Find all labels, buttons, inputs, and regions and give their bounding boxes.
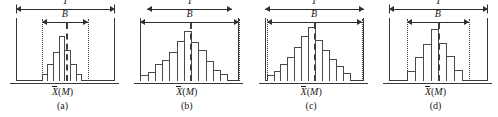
panel-a-axis [10, 83, 119, 84]
panel-b-spread-right-line [239, 19, 240, 81]
x-bar-symbol: X [301, 86, 307, 98]
panel-c-caption: (c) [251, 100, 372, 112]
panel-d-x-label: X(M) [375, 86, 496, 98]
histogram-bar [454, 70, 463, 81]
spread-label: B [267, 9, 362, 19]
histogram-bar [343, 73, 351, 81]
panel-a-spread-right-line [88, 19, 89, 81]
panel-c-x-label: X(M) [251, 86, 372, 98]
panel-a: T B X(M) (a) [2, 0, 123, 117]
panel-b-spread-left-line [140, 19, 141, 81]
m-symbol: M [186, 86, 194, 97]
panel-a-spread-left-line [42, 19, 43, 81]
panel-d-spread-left-line [407, 19, 408, 81]
panel-d-mean-line [438, 23, 440, 81]
panel-c-mean-line [314, 23, 316, 81]
paren-close: ) [443, 86, 446, 97]
x-bar-symbol: X [176, 86, 182, 98]
paren-close: ) [70, 86, 73, 97]
x-bar-symbol: X [52, 86, 58, 98]
histogram-bar [220, 74, 228, 81]
panel-c-axis [259, 83, 368, 84]
panel-c-spread-right-line [362, 19, 363, 81]
paren-close: ) [318, 86, 321, 97]
panel-c-spread-left-line [267, 19, 268, 81]
panel-b-mean-line [190, 23, 192, 81]
histogram-tolerance-figure: T B X(M) (a) T B [0, 0, 498, 117]
panel-b-plot [140, 18, 239, 81]
panel-d-caption: (d) [375, 100, 496, 112]
panel-d-plot [389, 18, 488, 81]
paren-close: ) [194, 86, 197, 97]
histogram-bar [76, 74, 83, 81]
panel-b: T B X(M) (b) [126, 0, 247, 117]
tolerance-label: T [147, 0, 232, 6]
panel-b-x-label: X(M) [126, 86, 247, 98]
m-symbol: M [434, 86, 442, 97]
x-bar-symbol: X [425, 86, 431, 98]
panel-d: T B X(M) (d) [375, 0, 496, 117]
spread-label: B [42, 9, 89, 19]
tolerance-label: T [265, 0, 364, 6]
panel-d-spread-right-line [469, 19, 470, 81]
panel-b-caption: (b) [126, 100, 247, 112]
panel-a-mean-line [66, 23, 68, 81]
panel-a-x-label: X(M) [2, 86, 123, 98]
tolerance-label: T [16, 0, 115, 6]
panel-a-plot [16, 18, 115, 81]
spread-label: B [140, 9, 239, 19]
panel-d-axis [383, 83, 492, 84]
panel-a-caption: (a) [2, 100, 123, 112]
panel-c: T B X(M) (c) [251, 0, 372, 117]
panel-c-plot [265, 18, 364, 81]
spread-label: B [407, 9, 469, 19]
panel-b-axis [134, 83, 243, 84]
m-symbol: M [61, 86, 69, 97]
tolerance-label: T [389, 0, 488, 6]
